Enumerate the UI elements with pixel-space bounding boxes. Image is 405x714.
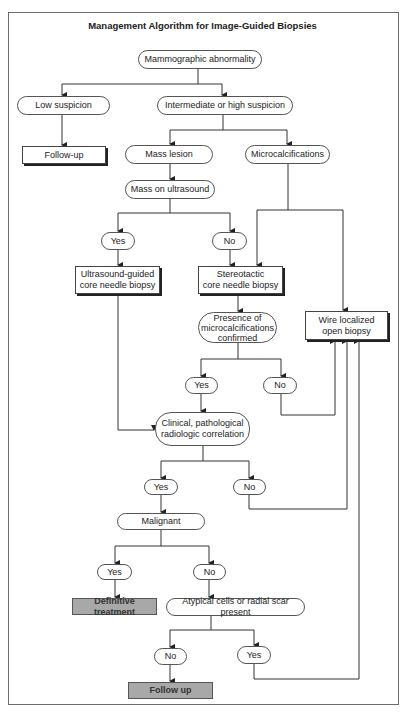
node-follow-up-final: Follow up xyxy=(128,682,213,699)
node-label: Yes xyxy=(107,567,122,578)
node-label: Clinical, pathological xyxy=(161,418,243,429)
node-label: Presence of xyxy=(213,313,261,323)
node-label: Malignant xyxy=(141,516,180,527)
node-clinical-correlation: Clinical, pathological radiologic correl… xyxy=(155,412,250,446)
node-microcalcifications: Microcalcifications xyxy=(245,145,330,164)
node-low-suspicion: Low suspicion xyxy=(17,96,110,115)
node-label: open biopsy xyxy=(322,326,371,337)
node-presence-yes: Yes xyxy=(185,377,218,394)
node-label: Stereotactic xyxy=(217,269,265,280)
node-label: Yes xyxy=(154,482,169,493)
node-label: No xyxy=(274,380,286,391)
node-mass-on-ultrasound: Mass on ultrasound xyxy=(125,180,215,199)
node-label: radiologic correlation xyxy=(161,429,244,440)
node-label: Low suspicion xyxy=(35,100,92,111)
node-follow-up-low: Follow-up xyxy=(22,146,106,164)
node-wire-localized-biopsy: Wire localized open biopsy xyxy=(305,311,388,340)
node-label: confirmed xyxy=(218,333,258,343)
node-us-yes: Yes xyxy=(101,232,135,250)
node-label: core needle biopsy xyxy=(80,280,156,291)
node-label: No xyxy=(224,236,236,247)
node-label: Microcalcifications xyxy=(251,149,324,160)
node-label: Mammographic abnormality xyxy=(144,54,255,65)
node-malignant: Malignant xyxy=(117,513,205,530)
node-label: core needle biopsy xyxy=(203,280,279,291)
node-label: Atypical cells or radial scar present xyxy=(167,596,304,618)
node-label: Yes xyxy=(194,380,209,391)
node-label: Mass lesion xyxy=(145,149,193,160)
node-label: No xyxy=(165,651,177,662)
node-us-no: No xyxy=(212,232,247,250)
node-label: No xyxy=(204,567,216,578)
node-correlation-no: No xyxy=(233,479,266,495)
node-label: Mass on ultrasound xyxy=(131,184,210,195)
node-mammographic-abnormality: Mammographic abnormality xyxy=(138,50,262,69)
node-stereotactic-biopsy: Stereotactic core needle biopsy xyxy=(198,266,283,294)
node-presence-no: No xyxy=(263,377,297,394)
node-malignant-yes: Yes xyxy=(97,564,132,580)
node-presence-confirmed: Presence of microcalcifications confirme… xyxy=(198,312,277,343)
node-label: No xyxy=(244,482,256,493)
node-intermediate-high-suspicion: Intermediate or high suspicion xyxy=(157,96,293,115)
node-us-guided-biopsy: Ultrasound-guided core needle biopsy xyxy=(75,266,160,294)
node-label: Intermediate or high suspicion xyxy=(165,100,285,111)
node-label: Yes xyxy=(247,650,262,661)
node-correlation-yes: Yes xyxy=(144,479,178,495)
node-label: Ultrasound-guided xyxy=(81,269,155,280)
node-definitive-treatment: Definitive treatment xyxy=(72,598,157,615)
node-atypical-yes: Yes xyxy=(237,646,271,664)
node-atypical-cells: Atypical cells or radial scar present xyxy=(166,598,305,616)
node-mass-lesion: Mass lesion xyxy=(125,145,213,164)
node-label: Follow up xyxy=(150,685,192,696)
node-label: Wire localized xyxy=(318,315,374,326)
node-label: Yes xyxy=(111,236,126,247)
node-malignant-no: No xyxy=(193,564,226,580)
node-label: Definitive treatment xyxy=(73,596,156,618)
node-atypical-no: No xyxy=(154,648,187,665)
node-label: microcalcifications xyxy=(201,323,274,333)
node-label: Follow-up xyxy=(44,150,83,161)
